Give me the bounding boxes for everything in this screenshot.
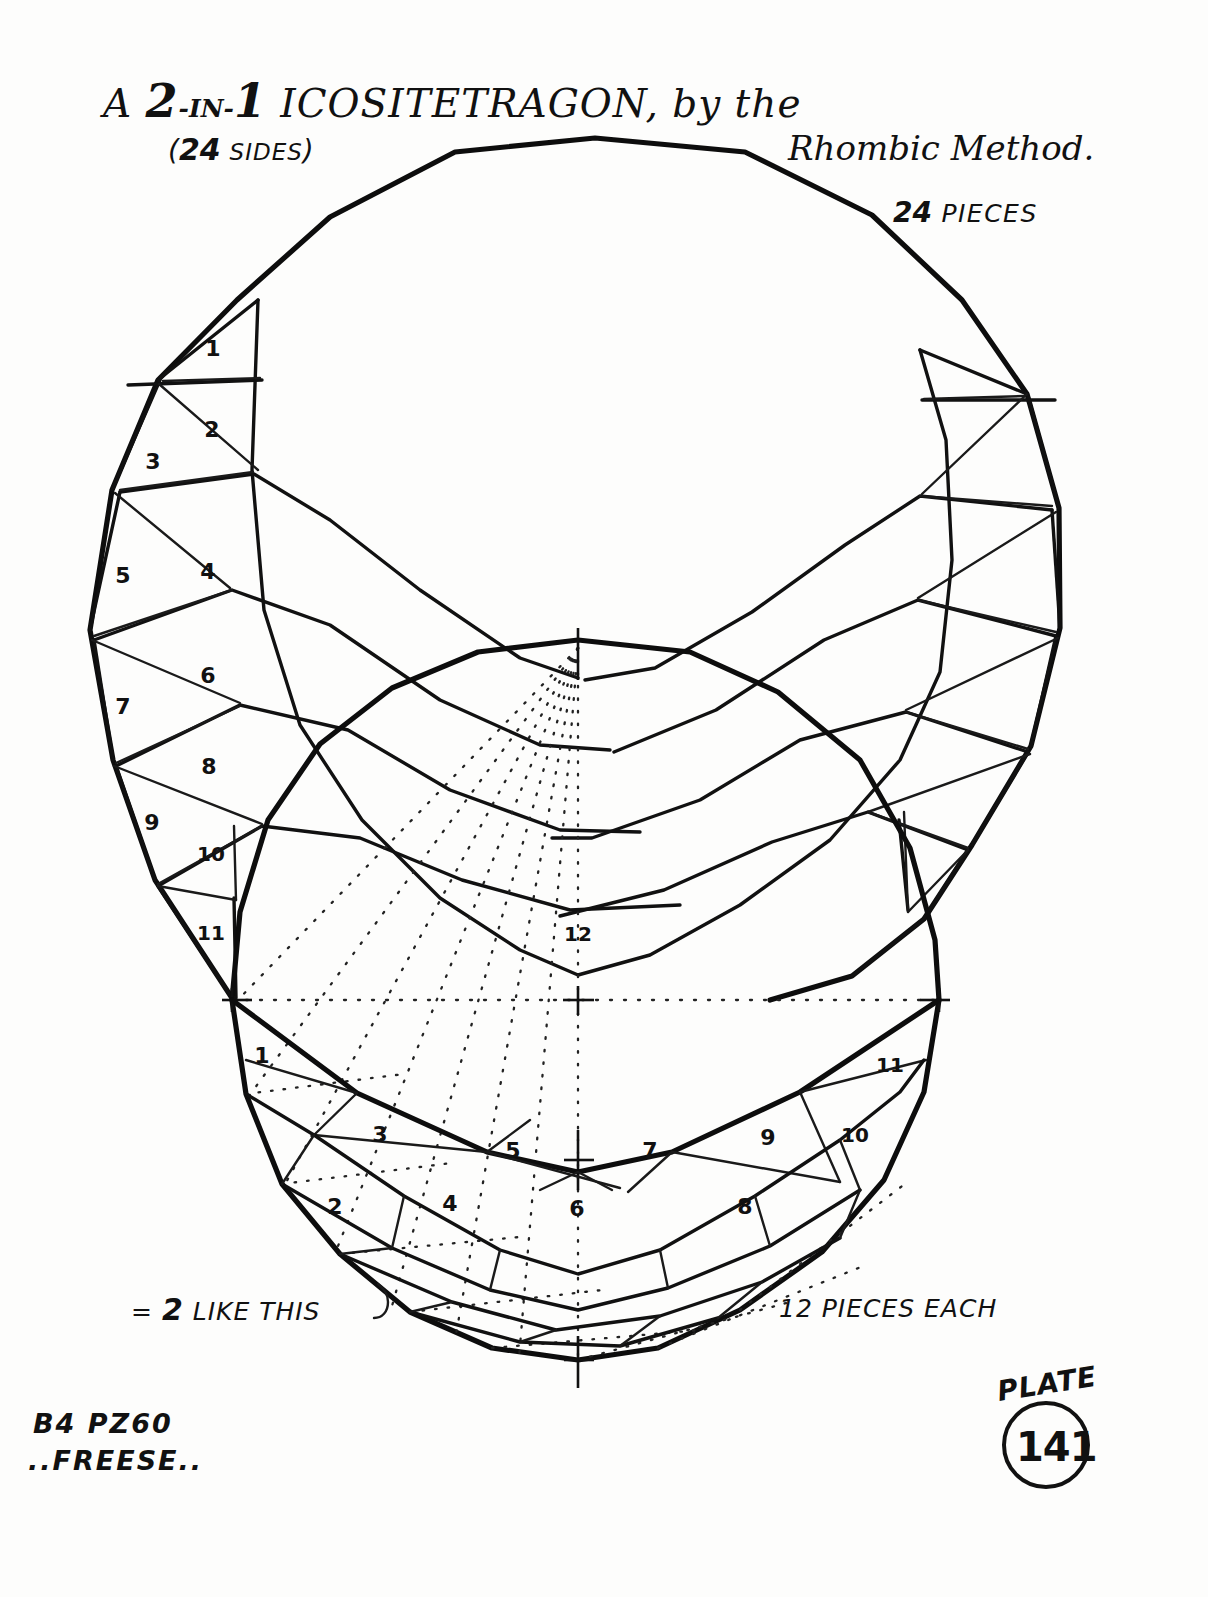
upper-piece-label-1: 1 [205,336,220,361]
lower-construction-dotted [234,648,910,1360]
lower-piece-label-10: 10 [841,1123,869,1147]
title-in: -IN- [179,94,234,123]
upper-piece-label-3: 3 [145,449,160,474]
lower-piece-label-8: 8 [737,1194,752,1219]
upper-piece-label-4: 4 [200,559,215,584]
upper-piece-label-6: 6 [200,663,215,688]
icositetragon-drawing: .heavy { fill:none; stroke:#0d0d0d; stro… [0,0,1208,1597]
upper-inner-core [252,300,952,975]
sides-label: SIDES [230,139,303,165]
pieces-each-note: 12 PIECES EACH [779,1294,997,1323]
title-a: A [103,81,146,126]
upper-piece-label-2: 2 [204,417,219,442]
lower-piece-label-5: 5 [505,1138,520,1163]
upper-left-pieces [90,300,680,998]
upper-piece-label-8: 8 [201,754,216,779]
lower-piece-label-3: 3 [372,1122,387,1147]
pieces-label: PIECES [941,199,1037,228]
signature-name: ..FREESE.. [28,1445,203,1476]
upper-piece-label-10: 10 [197,842,225,866]
page-title: A 2-IN-1 ICOSITETRAGON, by the [103,74,802,128]
lower-piece-label-6: 6 [569,1196,584,1221]
upper-right-pieces [552,350,1060,976]
equals-sign: = [131,1297,153,1326]
like-this-label: LIKE THIS [193,1297,321,1326]
lower-piece-label-4: 4 [442,1191,457,1216]
upper-piece-label-5: 5 [115,563,130,588]
center-crosshair-mid [564,1130,594,1190]
lower-piece-label-2: 2 [327,1194,342,1219]
like-this-note: = 2 LIKE THIS [131,1292,320,1327]
pieces-count: 24 [893,196,932,229]
pieces-note: 24 PIECES [893,196,1038,229]
title-2: 2 [146,74,179,128]
title-rest: ICOSITETRAGON, by the [267,81,802,126]
horizontal-axis [222,986,950,1015]
page-subtitle: Rhombic Method. [788,128,1094,168]
lower-piece-label-1: 1 [254,1043,269,1068]
plate-sheet: .heavy { fill:none; stroke:#0d0d0d; stro… [0,0,1208,1597]
like-this-count: 2 [162,1292,184,1327]
upper-piece-label-9: 9 [144,810,159,835]
sides-count: 24 [179,132,221,167]
plate-number: 141 [1016,1424,1097,1470]
lower-piece-label-11: 11 [876,1053,904,1077]
upper-piece-label-11: 11 [197,921,225,945]
title-1: 1 [234,74,267,128]
upper-piece-label-7: 7 [115,694,130,719]
lower-piece-label-9: 9 [760,1125,775,1150]
sides-note: (24 SIDES) [168,132,314,167]
lower-piece-label-7: 7 [642,1138,657,1163]
upper-piece-label-12: 12 [564,922,592,946]
signature-code: B4 PZ60 [33,1408,173,1439]
